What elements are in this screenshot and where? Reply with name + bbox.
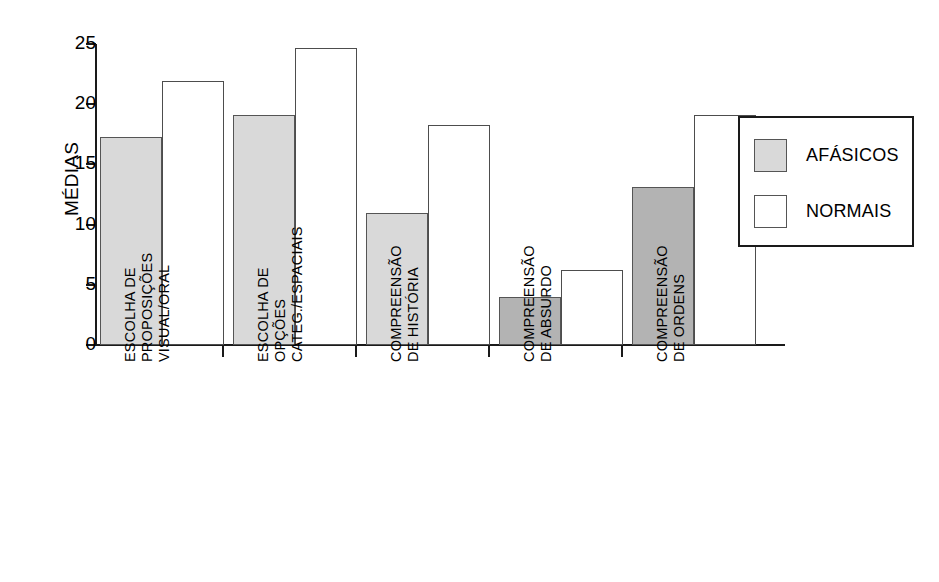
x-group-tick <box>621 346 623 357</box>
x-group-tick <box>355 346 357 357</box>
bar-chart: MÉDIAS 0510152025 ESCOLHA DE PROPOSIÇÕES… <box>0 0 939 582</box>
x-axis-label: COMPREENSÃO DE ORDENS <box>654 152 688 362</box>
legend-item: AFÁSICOS <box>754 138 899 172</box>
y-tick-label: 15 <box>52 153 96 172</box>
legend-item: NORMAIS <box>754 194 891 228</box>
x-axis-label: COMPREENSÃO DE HISTÓRIA <box>388 152 422 362</box>
y-tick-label: 25 <box>52 33 96 52</box>
legend-swatch <box>754 139 787 172</box>
y-tick: 5 <box>0 284 96 286</box>
x-group-tick <box>222 346 224 357</box>
y-tick: 20 <box>0 103 96 105</box>
legend-label: NORMAIS <box>806 201 891 222</box>
bar-normais <box>561 270 623 345</box>
legend-label: AFÁSICOS <box>806 145 899 166</box>
y-tick: 0 <box>0 344 96 346</box>
y-tick-label: 5 <box>52 274 96 293</box>
x-axis-label: ESCOLHA DE OPÇÕES CATEG./ESPACIAIS <box>255 152 306 362</box>
bar-normais <box>428 125 490 345</box>
y-tick: 15 <box>0 163 96 165</box>
y-tick: 25 <box>0 43 96 45</box>
x-group-tick <box>488 346 490 357</box>
y-tick-label: 0 <box>52 334 96 353</box>
y-tick-label: 20 <box>52 93 96 112</box>
y-tick-label: 10 <box>52 214 96 233</box>
legend: AFÁSICOSNORMAIS <box>738 116 914 247</box>
x-axis-label: COMPREENSÃO DE ABSURDO <box>521 152 555 362</box>
x-axis-label: ESCOLHA DE PROPOSIÇÕES VISUAL/ORAL <box>122 152 173 362</box>
legend-swatch <box>754 195 787 228</box>
y-tick: 10 <box>0 224 96 226</box>
y-axis-line <box>95 44 97 346</box>
